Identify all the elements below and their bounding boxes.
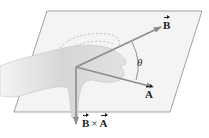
cross-right-operand: A bbox=[100, 118, 108, 129]
cross-operator: × bbox=[91, 117, 97, 129]
label-vector-b: B bbox=[163, 20, 170, 31]
label-cross-product: B×A bbox=[82, 118, 108, 129]
label-vector-a: A bbox=[145, 89, 153, 100]
label-angle-theta: θ bbox=[137, 56, 142, 68]
cross-left-operand: B bbox=[82, 118, 89, 129]
